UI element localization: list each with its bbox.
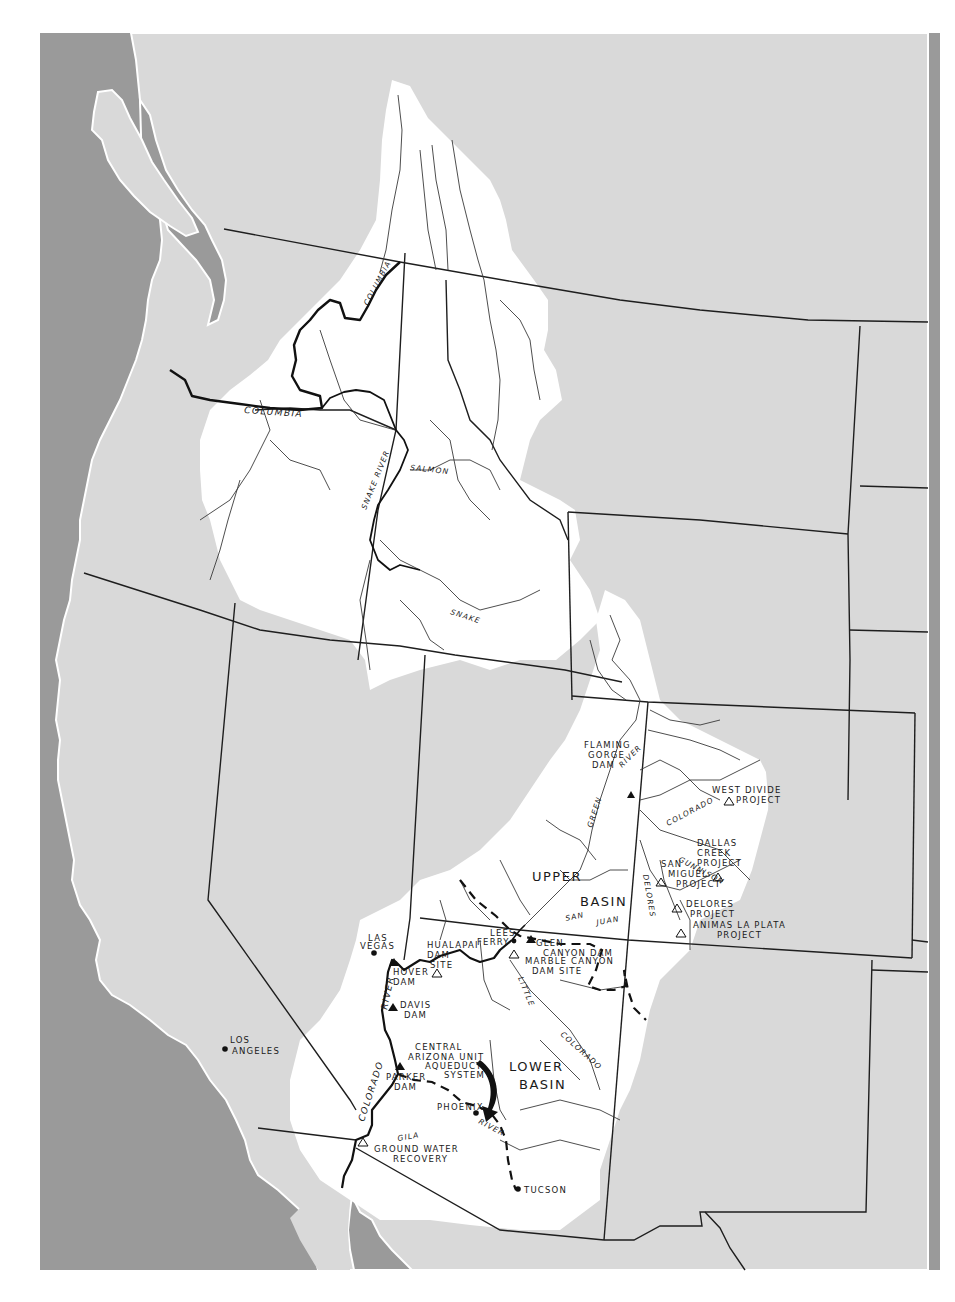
aqueduct-label-1: CENTRAL — [415, 1042, 462, 1052]
dallas-creek-label-2: CREEK — [697, 848, 731, 858]
los-angeles-dot-icon — [222, 1046, 228, 1052]
colorado-basin-map: UPPER BASIN LOWER BASIN COLUMBIA COLUMBI… — [0, 0, 955, 1302]
tucson-dot-icon — [515, 1186, 521, 1192]
san-miguel-label-3: PROJECT — [676, 879, 721, 889]
animas-label-1: ANIMAS LA PLATA — [693, 920, 786, 930]
dallas-creek-label-3: PROJECT — [697, 858, 742, 868]
flaming-gorge-label-3: DAM — [592, 760, 615, 770]
delores-label-1: DELORES — [686, 899, 734, 909]
parker-dam-label-2: DAM — [394, 1082, 417, 1092]
los-angeles-label-1: LOS — [230, 1035, 250, 1045]
upper-basin-label-1: UPPER — [532, 869, 582, 884]
las-vegas-label-2: VEGAS — [360, 941, 395, 951]
san-miguel-label-1: SAN — [661, 859, 682, 869]
upper-basin-label-2: BASIN — [580, 894, 627, 909]
davis-dam-label-2: DAM — [404, 1010, 427, 1020]
lees-ferry-label-2: FERRY — [477, 937, 510, 947]
lower-basin-label-1: LOWER — [509, 1059, 564, 1074]
tucson-label: TUCSON — [523, 1185, 567, 1195]
flaming-gorge-label-1: FLAMING — [584, 740, 631, 750]
hualapai-label-1: HUALAPAI — [427, 940, 479, 950]
marble-canyon-label-1: MARBLE CANYON — [525, 956, 614, 966]
flaming-gorge-label-2: GORGE — [588, 750, 625, 760]
phoenix-label: PHOENIX — [437, 1102, 484, 1112]
dallas-creek-label-1: DALLAS — [697, 838, 737, 848]
parker-dam-label-1: PARKER — [386, 1072, 426, 1082]
lower-basin-label-2: BASIN — [519, 1077, 566, 1092]
ground-water-label-1: GROUND WATER — [374, 1144, 459, 1154]
san-miguel-label-2: MIGUEL — [668, 869, 708, 879]
hualapai-label-2: DAM — [427, 950, 450, 960]
hover-dam-label-2: DAM — [393, 977, 416, 987]
aqueduct-label-4: SYSTEM — [444, 1070, 485, 1080]
las-vegas-dot-icon — [371, 950, 377, 956]
hover-dam-label-1: HOVER — [393, 967, 429, 977]
davis-dam-label-1: DAVIS — [400, 1000, 431, 1010]
marble-canyon-label-2: DAM SITE — [532, 966, 582, 976]
ground-water-label-2: RECOVERY — [393, 1154, 448, 1164]
los-angeles-label-2: ANGELES — [232, 1046, 280, 1056]
west-divide-label-2: PROJECT — [736, 795, 781, 805]
animas-label-2: PROJECT — [717, 930, 762, 940]
delores-label-2: PROJECT — [690, 909, 735, 919]
lees-ferry-dot-icon — [512, 939, 517, 944]
glen-canyon-label-1: GLEN — [536, 938, 564, 948]
hualapai-label-3: SITE — [430, 960, 453, 970]
west-divide-label-1: WEST DIVIDE — [712, 785, 782, 795]
